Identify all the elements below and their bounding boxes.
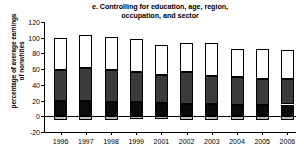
bar-segment bbox=[180, 116, 193, 120]
bar-segment bbox=[231, 116, 244, 120]
bar-stack bbox=[79, 22, 92, 132]
bar-segment bbox=[105, 70, 118, 102]
bar-segment bbox=[155, 45, 168, 75]
y-tick-label: 100 bbox=[28, 34, 40, 41]
y-tick-mark bbox=[41, 116, 44, 117]
bar-segment bbox=[130, 102, 143, 116]
y-tick-mark bbox=[41, 22, 44, 23]
bar-segment bbox=[256, 79, 269, 106]
bar-segment bbox=[130, 72, 143, 103]
y-axis-title-line-2: of nonwhites bbox=[18, 4, 26, 118]
plot-area: 120100806040200-20 199619971998199920012… bbox=[44, 22, 296, 132]
y-tick-label: 20 bbox=[32, 97, 40, 104]
y-tick-mark bbox=[41, 132, 44, 133]
bar-segment bbox=[79, 116, 92, 120]
bar-segment bbox=[155, 103, 168, 116]
y-tick-label: 80 bbox=[32, 50, 40, 57]
bar-stack bbox=[155, 22, 168, 132]
bar-segment bbox=[180, 104, 193, 117]
chart-title-line-2: occupation, and sector bbox=[60, 11, 260, 20]
bar-segment bbox=[231, 105, 244, 117]
x-tick-mark bbox=[86, 132, 87, 135]
y-axis-title-line-1: percentage of average earnings bbox=[10, 4, 18, 118]
y-tick-label: 0 bbox=[36, 113, 40, 120]
y-tick-mark bbox=[41, 53, 44, 54]
y-tick-label: 60 bbox=[32, 66, 40, 73]
bar-segment bbox=[281, 116, 294, 120]
bar-segment bbox=[105, 116, 118, 120]
bar-segment bbox=[256, 105, 269, 116]
x-tick-label: 2003 bbox=[204, 138, 220, 145]
x-tick-label: 1998 bbox=[103, 138, 119, 145]
bar-segment bbox=[54, 101, 67, 116]
bar-segment bbox=[79, 35, 92, 67]
x-tick-mark bbox=[111, 132, 112, 135]
bar-segment bbox=[155, 75, 168, 103]
y-tick-mark bbox=[41, 38, 44, 39]
y-axis-title: percentage of average earnings of nonwhi… bbox=[10, 4, 28, 118]
bar-segment bbox=[105, 37, 118, 70]
y-tick-label: 40 bbox=[32, 81, 40, 88]
bar-segment bbox=[281, 105, 294, 117]
x-tick-label: 2006 bbox=[280, 138, 296, 145]
bar-segment bbox=[180, 72, 193, 103]
x-tick-label: 2005 bbox=[254, 138, 270, 145]
bar-segment bbox=[281, 79, 294, 104]
bar-segment bbox=[180, 43, 193, 72]
bar-segment bbox=[256, 116, 269, 120]
bar-stack bbox=[281, 22, 294, 132]
bar-segment bbox=[256, 49, 269, 79]
bar-segment bbox=[130, 39, 143, 72]
y-tick-mark bbox=[41, 69, 44, 70]
bar-segment bbox=[79, 68, 92, 102]
x-tick-mark bbox=[212, 132, 213, 135]
x-tick-label: 2001 bbox=[154, 138, 170, 145]
bar-segment bbox=[205, 76, 218, 104]
bar-segment bbox=[105, 102, 118, 116]
bar-segment bbox=[281, 50, 294, 79]
x-tick-label: 1997 bbox=[78, 138, 94, 145]
x-axis-line bbox=[44, 132, 296, 133]
bar-segment bbox=[54, 116, 67, 120]
bar-segment bbox=[130, 116, 143, 119]
x-tick-label: 1999 bbox=[128, 138, 144, 145]
bar-stack bbox=[231, 22, 244, 132]
bar-stack bbox=[256, 22, 269, 132]
bar-segment bbox=[231, 77, 244, 105]
bar-segment bbox=[54, 38, 67, 70]
bar-segment bbox=[205, 43, 218, 76]
bar-segment bbox=[231, 49, 244, 77]
x-tick-label: 2002 bbox=[179, 138, 195, 145]
x-tick-mark bbox=[237, 132, 238, 135]
bar-stack bbox=[205, 22, 218, 132]
bar-stack bbox=[54, 22, 67, 132]
x-tick-mark bbox=[161, 132, 162, 135]
bar-stack bbox=[130, 22, 143, 132]
y-tick-mark bbox=[41, 85, 44, 86]
bar-segment bbox=[205, 104, 218, 117]
x-tick-mark bbox=[136, 132, 137, 135]
bar-segment bbox=[155, 116, 168, 119]
bar-segment bbox=[205, 116, 218, 120]
x-tick-mark bbox=[187, 132, 188, 135]
x-tick-mark bbox=[262, 132, 263, 135]
chart-title-line-1: e. Controlling for education, age, regio… bbox=[60, 2, 260, 11]
y-tick-label: -20 bbox=[30, 129, 40, 136]
x-tick-label: 1996 bbox=[53, 138, 69, 145]
bar-stack bbox=[180, 22, 193, 132]
bar-stack bbox=[105, 22, 118, 132]
chart-title: e. Controlling for education, age, regio… bbox=[60, 2, 260, 20]
bar-segment bbox=[54, 70, 67, 101]
y-tick-label: 120 bbox=[28, 19, 40, 26]
x-tick-mark bbox=[61, 132, 62, 135]
x-tick-mark bbox=[287, 132, 288, 135]
x-tick-label: 2004 bbox=[229, 138, 245, 145]
y-tick-mark bbox=[41, 101, 44, 102]
chart-figure: e. Controlling for education, age, regio… bbox=[0, 0, 304, 160]
bar-segment bbox=[79, 101, 92, 116]
